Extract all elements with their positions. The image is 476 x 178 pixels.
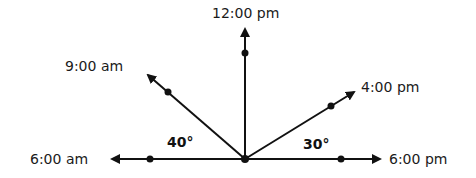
ray-6pm-dot bbox=[338, 156, 345, 163]
ray-9am-dot bbox=[165, 89, 172, 96]
angle-label-40: 40° bbox=[167, 135, 193, 149]
sun-angle-diagram: 12:00 pm 9:00 am 4:00 pm 6:00 am 6:00 pm… bbox=[0, 0, 476, 178]
label-12pm: 12:00 pm bbox=[212, 6, 279, 20]
origin-point bbox=[241, 155, 249, 163]
ray-6am bbox=[112, 156, 245, 163]
ray-9am-line bbox=[148, 75, 245, 159]
ray-4pm-line bbox=[245, 92, 354, 159]
ray-6pm bbox=[245, 156, 380, 163]
ray-4pm bbox=[245, 92, 354, 159]
label-9am: 9:00 am bbox=[65, 59, 123, 73]
label-6pm: 6:00 pm bbox=[389, 152, 447, 166]
ray-12pm-dot bbox=[242, 50, 249, 57]
angle-label-30: 30° bbox=[303, 137, 329, 151]
ray-9am bbox=[148, 75, 245, 159]
ray-12pm bbox=[242, 29, 249, 159]
ray-6am-dot bbox=[147, 156, 154, 163]
label-4pm: 4:00 pm bbox=[361, 80, 419, 94]
ray-4pm-dot bbox=[328, 103, 335, 110]
label-6am: 6:00 am bbox=[30, 152, 88, 166]
